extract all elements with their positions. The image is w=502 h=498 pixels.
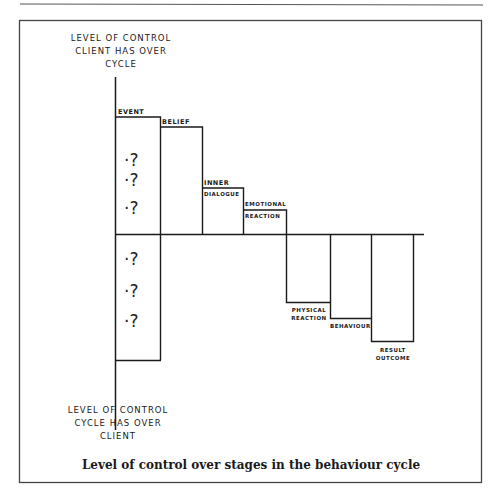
axis-top-label-line: LEVEL OF CONTROL xyxy=(66,32,176,45)
belief-bar xyxy=(161,127,203,234)
axis-top-label: LEVEL OF CONTROL CLIENT HAS OVER CYCLE xyxy=(66,32,176,71)
stage-label-emotional: EMOTIONAL xyxy=(245,200,286,208)
axis-bottom-label-line: CLIENT xyxy=(62,430,174,443)
page-top-rule xyxy=(20,4,483,5)
figure-caption: Level of control over stages in the beha… xyxy=(20,458,482,472)
stage-label-text: DIALOGUE xyxy=(204,191,240,197)
stage-label-text: BEHAVIOUR xyxy=(330,323,371,329)
unknown-marker: ·? xyxy=(124,198,138,218)
axis-bottom-label: LEVEL OF CONTROL CYCLE HAS OVER CLIENT xyxy=(62,404,174,443)
stage-label-behaviour: BEHAVIOUR xyxy=(330,322,371,330)
stage-label-text: INNER xyxy=(204,179,229,187)
physical-reaction-bar xyxy=(287,234,331,303)
stage-label-text: REACTION xyxy=(287,314,331,322)
unknown-marker: ·? xyxy=(124,170,138,190)
axis-top-label-line: CLIENT HAS OVER xyxy=(66,45,176,58)
unknown-marker: ·? xyxy=(124,150,138,170)
stage-label-text: RESULT xyxy=(370,346,416,354)
unknown-marker: ·? xyxy=(124,249,138,269)
axis-bottom-label-line: LEVEL OF CONTROL xyxy=(62,404,174,417)
stage-label-result-outcome: RESULT OUTCOME xyxy=(370,346,416,362)
axis-top-label-line: CYCLE xyxy=(66,58,176,71)
stage-label-dialogue: DIALOGUE xyxy=(204,190,240,198)
stage-label-physical-reaction: PHYSICAL REACTION xyxy=(287,306,331,322)
stage-label-reaction: REACTION xyxy=(245,212,280,220)
result-outcome-bar xyxy=(372,234,414,342)
stage-label-belief: BELIEF xyxy=(162,118,190,126)
stage-label-text: EMOTIONAL xyxy=(245,201,286,207)
stage-label-text: PHYSICAL xyxy=(287,306,331,314)
unknown-marker: ·? xyxy=(124,311,138,331)
stage-label-event: EVENT xyxy=(118,108,144,116)
stage-label-text: EVENT xyxy=(118,108,144,116)
stage-label-text: REACTION xyxy=(245,213,280,219)
stage-label-text: OUTCOME xyxy=(370,354,416,362)
behaviour-bar xyxy=(331,234,372,319)
axis-bottom-label-line: CYCLE HAS OVER xyxy=(62,417,174,430)
stage-label-text: BELIEF xyxy=(162,118,190,126)
unknown-marker: ·? xyxy=(124,281,138,301)
stage-label-inner: INNER xyxy=(204,179,229,187)
